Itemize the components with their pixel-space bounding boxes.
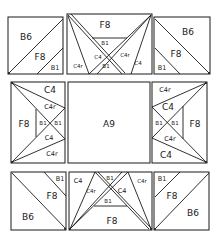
label-f8: F8 (190, 119, 201, 129)
label-a9: A9 (103, 119, 115, 129)
block-top-right: B6 F8 B1 (154, 17, 210, 74)
corner-dot (150, 228, 152, 230)
label-b6: B6 (182, 27, 194, 37)
corner-dot (208, 72, 210, 74)
label-b1-left: B1 (155, 120, 162, 126)
corner-dot (8, 72, 10, 74)
label-b1-upper: B1 (101, 40, 108, 46)
label-c4r-upper: C4r (44, 103, 56, 111)
label-c4-right: C4 (134, 60, 142, 66)
block-bottom-right: B1 F8 B6 (154, 172, 209, 230)
label-b6: B6 (22, 212, 34, 222)
label-c4-left: C4 (94, 54, 102, 60)
corner-dot (64, 228, 66, 230)
label-c4r-bottom: C4r (46, 150, 58, 158)
block-top-left: B6 F8 B1 (8, 17, 63, 74)
label-c4r-right: C4r (120, 52, 130, 58)
label-b1-right: B1 (54, 120, 61, 126)
label-b1: B1 (158, 175, 167, 183)
label-b1: B1 (158, 64, 167, 72)
label-c4-left: C4 (74, 177, 83, 185)
label-b6: B6 (187, 208, 199, 218)
label-c4-center: C4 (118, 187, 127, 195)
label-c4-bottom: C4 (160, 150, 172, 160)
block-middle-left: C4 C4r F8 B1 B1 C4 C4r (11, 82, 65, 163)
label-b1-lower: B1 (104, 198, 111, 204)
label-c4r-left: C4r (73, 63, 83, 69)
corner-dot (69, 228, 71, 230)
corner-dot (11, 161, 13, 163)
label-f8: F8 (47, 191, 58, 201)
label-f8: F8 (100, 20, 111, 30)
label-b1-upper: B1 (106, 175, 113, 181)
label-f8: F8 (171, 49, 182, 59)
label-f8: F8 (19, 119, 30, 129)
block-middle-right: C4r C4 B1 B1 F8 C4r C4 (152, 82, 207, 163)
corner-dot (205, 82, 207, 84)
label-b1: B1 (56, 175, 65, 183)
label-b1-left: B1 (39, 120, 46, 126)
label-b1-lower: B1 (102, 63, 109, 69)
quilt-diagram: B6 F8 B1 F8 B1 C4r C4 B1 C4r C4 B6 F8 B1 (0, 0, 220, 242)
label-b1-right: B1 (171, 120, 178, 126)
block-center: A9 (68, 82, 150, 163)
label-f8: F8 (167, 191, 178, 201)
label-c4r-top: C4r (159, 86, 171, 94)
label-c4-top: C4 (44, 85, 56, 95)
label-c4-upper: C4 (162, 102, 174, 112)
block-bottom-center: C4 C4r B1 C4 B1 C4r F8 (69, 172, 152, 230)
label-b1: B1 (51, 64, 60, 72)
corner-dot (154, 228, 156, 230)
corner-dot (11, 82, 13, 84)
label-f8: F8 (107, 216, 118, 226)
label-c4-lower: C4 (45, 134, 54, 142)
label-c4r-lower: C4r (164, 135, 176, 143)
corner-dot (205, 161, 207, 163)
label-f8: F8 (35, 52, 46, 62)
label-c4r-right: C4r (137, 178, 147, 184)
label-b6: B6 (20, 32, 32, 42)
block-bottom-left: B1 F8 B6 (11, 172, 66, 230)
block-top-center: F8 B1 C4r C4 B1 C4r C4 (67, 14, 152, 74)
label-c4r-left: C4r (86, 188, 96, 194)
